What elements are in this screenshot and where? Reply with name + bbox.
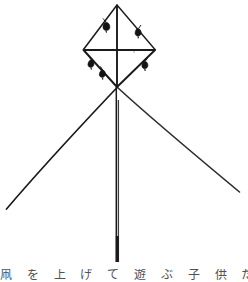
kite-figure: 凧 を 上 げ て 遊 ぶ 子 供 た [0, 0, 248, 282]
kite-drawing [0, 0, 248, 282]
tassel-tail [106, 31, 107, 33]
tassel-body [142, 61, 148, 68]
ink-speck [133, 51, 134, 52]
tassel-body [135, 29, 141, 36]
drawing-background [0, 0, 248, 282]
tassel-body [103, 22, 110, 30]
